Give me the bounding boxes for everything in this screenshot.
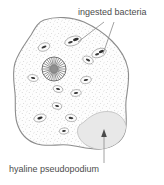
amoeba-illustration	[0, 0, 164, 185]
label-hyaline-pseudopodium: hyaline pseudopodium	[9, 164, 99, 174]
amoeba-diagram: ingested bacteria hyaline pseudopodium	[0, 0, 164, 185]
nucleus	[42, 57, 66, 81]
food-vacuole	[59, 128, 69, 135]
label-ingested-bacteria: ingested bacteria	[78, 7, 147, 17]
